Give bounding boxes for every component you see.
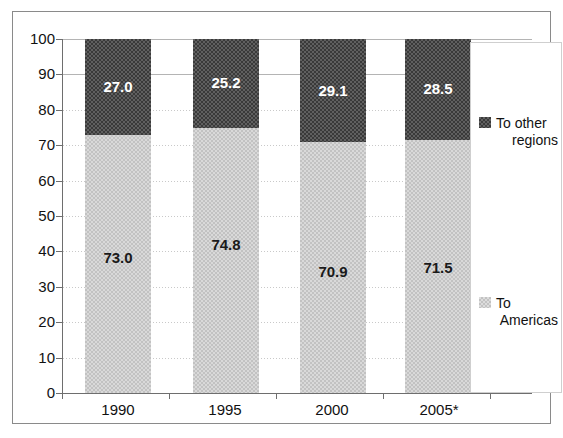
legend-label-line1: To other bbox=[496, 115, 547, 131]
y-tick-label: 90 bbox=[17, 66, 55, 81]
x-tick-label-1995: 1995 bbox=[170, 402, 280, 418]
legend-label-line2: Americas bbox=[496, 312, 558, 329]
bar-value-label: 71.5 bbox=[405, 260, 471, 276]
y-tick-label: 40 bbox=[17, 243, 55, 258]
x-tick-mark bbox=[383, 393, 384, 399]
x-tick-mark bbox=[62, 393, 63, 399]
legend-label-to-americas: ToAmericas bbox=[496, 295, 558, 329]
legend-swatch-dark-icon bbox=[479, 117, 491, 128]
bar-value-label: 25.2 bbox=[193, 75, 259, 91]
x-axis-line bbox=[62, 393, 532, 394]
y-tick-label: 50 bbox=[17, 208, 55, 223]
x-tick-label-2005: 2005* bbox=[384, 402, 494, 418]
y-tick-label: 0 bbox=[17, 385, 55, 400]
legend-label-to-other-regions: To otherregions bbox=[496, 115, 558, 149]
legend-label-line2: regions bbox=[496, 132, 558, 149]
bar-value-label: 29.1 bbox=[300, 83, 366, 99]
x-tick-label-1990: 1990 bbox=[63, 402, 173, 418]
bar-value-label: 73.0 bbox=[85, 250, 151, 266]
bar-segment-to-other-regions[interactable]: 29.1 bbox=[300, 39, 366, 142]
x-tick-mark bbox=[276, 393, 277, 399]
x-tick-mark bbox=[169, 393, 170, 399]
y-tick-label: 30 bbox=[17, 279, 55, 294]
x-tick-mark bbox=[490, 393, 491, 399]
x-axis-labels: 1990 1995 2000 2005* bbox=[62, 402, 532, 424]
y-axis-labels: 100 90 80 70 60 50 40 30 20 10 0 bbox=[13, 39, 55, 393]
chart-legend: To otherregions ToAmericas bbox=[470, 42, 562, 393]
legend-swatch-light-icon bbox=[479, 297, 491, 308]
y-tick-label: 60 bbox=[17, 173, 55, 188]
x-tick-label-2000: 2000 bbox=[277, 402, 387, 418]
y-axis-line bbox=[62, 39, 63, 393]
bar-value-label: 70.9 bbox=[300, 264, 366, 280]
bar-value-label: 27.0 bbox=[85, 79, 151, 95]
bar-2000[interactable]: 70.9 29.1 bbox=[300, 39, 366, 393]
y-tick-label: 70 bbox=[17, 137, 55, 152]
bar-segment-to-other-regions[interactable]: 28.5 bbox=[405, 39, 471, 140]
y-tick-label: 10 bbox=[17, 350, 55, 365]
bar-segment-to-other-regions[interactable]: 25.2 bbox=[193, 39, 259, 128]
bar-2005[interactable]: 71.5 28.5 bbox=[405, 39, 471, 393]
bar-value-label: 28.5 bbox=[405, 81, 471, 97]
bar-segment-to-americas[interactable]: 73.0 bbox=[85, 135, 151, 393]
bar-segment-to-americas[interactable]: 74.8 bbox=[193, 128, 259, 393]
chart-figure: 100 90 80 70 60 50 40 30 20 10 0 bbox=[0, 0, 563, 438]
bar-segment-to-americas[interactable]: 70.9 bbox=[300, 142, 366, 393]
y-tick-label: 80 bbox=[17, 102, 55, 117]
figure-frame: 100 90 80 70 60 50 40 30 20 10 0 bbox=[12, 11, 551, 424]
plot-area: 73.0 27.0 74.8 25.2 70.9 bbox=[62, 39, 532, 393]
bar-1990[interactable]: 73.0 27.0 bbox=[85, 39, 151, 393]
legend-label-line1: To bbox=[496, 295, 511, 311]
y-tick-label: 100 bbox=[17, 31, 55, 46]
bar-value-label: 74.8 bbox=[193, 237, 259, 253]
y-tick-label: 20 bbox=[17, 314, 55, 329]
bar-segment-to-other-regions[interactable]: 27.0 bbox=[85, 39, 151, 135]
bar-1995[interactable]: 74.8 25.2 bbox=[193, 39, 259, 393]
bar-segment-to-americas[interactable]: 71.5 bbox=[405, 140, 471, 393]
